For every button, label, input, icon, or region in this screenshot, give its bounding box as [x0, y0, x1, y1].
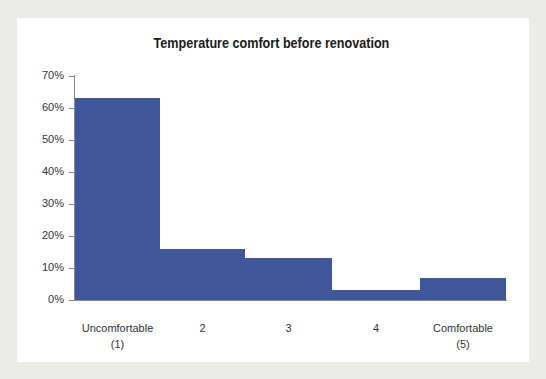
y-tick-label: 50% [28, 133, 64, 145]
bar [420, 278, 506, 300]
y-tick-label: 40% [28, 165, 64, 177]
y-tick-label: 70% [28, 69, 64, 81]
y-tick [69, 108, 74, 109]
x-axis-line [74, 300, 507, 301]
chart-title: Temperature comfort before renovation [27, 35, 516, 51]
y-tick [69, 236, 74, 237]
y-tick-label: 10% [28, 261, 64, 273]
y-tick [69, 172, 74, 173]
bar [160, 249, 245, 300]
bar [332, 290, 420, 300]
bar [75, 98, 160, 300]
y-tick [69, 204, 74, 205]
y-tick-label: 60% [28, 101, 64, 113]
y-axis-line [74, 75, 75, 300]
y-tick-label: 30% [28, 197, 64, 209]
y-tick [69, 268, 74, 269]
y-tick-label: 20% [28, 229, 64, 241]
y-tick-label: 0% [28, 293, 64, 305]
x-tick-label: Comfortable (5) [408, 320, 518, 352]
bar [245, 258, 332, 300]
y-tick [69, 76, 74, 77]
y-tick [69, 140, 74, 141]
y-tick [69, 300, 74, 301]
